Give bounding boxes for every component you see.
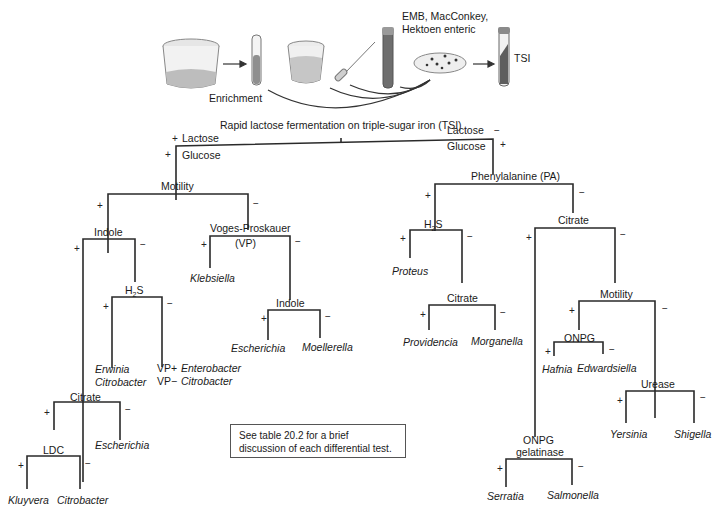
test-h2s-right: H2S [424,218,443,235]
lactose-negative-label: Lactose [447,124,484,136]
tsi-slant-tube-icon [497,26,511,88]
sign-plus: + [74,244,80,254]
sign-plus: + [18,461,24,471]
sample-beaker-icon [160,38,222,92]
organism-citrobacter: Citrobacter [95,376,146,388]
test-motility-right: Motility [600,288,633,300]
organism-hafnia: Hafnia [542,363,572,375]
sign-plus: + [420,310,426,320]
sign-minus: − [609,345,615,355]
organism-shigella: Shigella [674,428,711,440]
organism-moellerella: Moellerella [302,341,353,353]
sign-plus: + [261,314,267,324]
test-ldc: LDC [43,444,64,456]
sign-plus: + [497,464,503,474]
organism-enterobacter: Enterobacter [181,362,241,374]
test-indole-2: Indole [276,297,305,309]
sign-plus: + [165,150,171,160]
organism-edwardsiella: Edwardsiella [577,362,637,374]
sign-minus: − [467,232,473,242]
organism-serratia: Serratia [487,490,524,502]
organism-salmonella: Salmonella [547,489,599,501]
sign-minus: − [500,308,506,318]
organism-morganella: Morganella [471,335,523,347]
test-indole: Indole [94,226,123,238]
sign-minus: − [125,405,131,415]
enrichment-tube-icon [250,33,264,89]
sign-plus: + [201,240,207,250]
sign-minus: − [140,240,146,250]
tsi-label: TSI [514,52,530,64]
test-voges-proskauer-abbrev: (VP) [235,237,256,249]
lactose-positive-label: Lactose [182,132,219,144]
sign-minus: − [494,126,500,136]
glucose-negative-branch-label: Glucose [447,140,486,152]
glucose-positive-label: Glucose [182,149,221,161]
sign-minus: − [700,393,706,403]
sign-plus: + [103,302,109,312]
test-urease: Urease [641,378,675,390]
pipette-icon [332,40,378,86]
organism-yersinia: Yersinia [610,428,647,440]
sign-plus: + [44,408,50,418]
sign-minus: − [167,299,173,309]
note-box: See table 20.2 for a brief discussion of… [230,424,406,458]
organism-escherichia: Escherichia [231,342,285,354]
sign-plus: + [172,134,178,144]
sign-minus: − [253,199,259,209]
sign-minus: − [578,462,584,472]
sign-plus: + [617,396,623,406]
test-voges-proskauer: Voges-Proskauer [210,222,291,234]
test-citrate-left: Citrate [70,391,101,403]
sign-minus: − [662,304,668,314]
organism-citrobacter-3: Citrobacter [57,494,108,506]
sign-minus: − [620,230,626,240]
sign-plus: + [569,306,575,316]
test-onpg-gelatinase-line2: gelatinase [516,446,564,458]
sign-minus: − [325,312,331,322]
media-label-line2: Hektoen enteric [402,23,476,35]
broth-cup-icon [286,40,326,86]
vp-negative-label: VP− [157,375,177,387]
test-onpg-gelatinase: ONPG [523,434,554,446]
organism-kluyvera: Kluyvera [8,494,49,506]
test-phenylalanine: Phenylalanine (PA) [471,170,560,182]
test-h2s-left: H2S [125,284,144,301]
diagram-title: Rapid lactose fermentation on triple-sug… [220,119,462,131]
test-citrate-right-b: Citrate [558,214,589,226]
test-citrate-right-a: Citrate [447,292,478,304]
petri-dish-icon [412,50,468,76]
organism-escherichia-2: Escherichia [95,439,149,451]
organism-providencia: Providencia [403,336,458,348]
sign-plus: + [97,201,103,211]
test-motility: Motility [161,180,194,192]
sign-minus: − [579,188,585,198]
sign-plus: + [526,233,532,243]
sign-plus: + [425,191,431,201]
test-onpg: ONPG [564,332,595,344]
sign-plus: + [545,347,551,357]
organism-proteus: Proteus [392,265,428,277]
culture-tube-icon [381,26,395,90]
sign-minus: − [85,459,91,469]
organism-klebsiella: Klebsiella [190,272,235,284]
enrichment-label: Enrichment [209,92,262,104]
vp-positive-label: VP+ [157,362,177,374]
sign-plus: + [400,234,406,244]
media-label-line1: EMB, MacConkey, [402,10,488,22]
organism-citrobacter-2: Citrobacter [181,375,232,387]
organism-erwinia: Erwinia [95,363,129,375]
sign-plus: + [500,140,506,150]
sign-minus: − [295,237,301,247]
